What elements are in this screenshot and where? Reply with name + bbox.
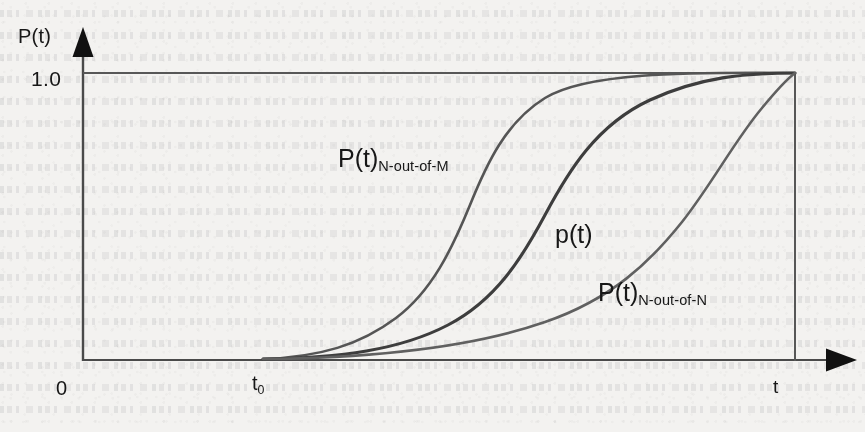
curve-label-p-t: p(t) bbox=[555, 222, 593, 247]
curve-p-t bbox=[263, 73, 795, 359]
y-tick-label-1-0: 1.0 bbox=[31, 68, 61, 89]
curve-label-n-out-of-m: P(t)N-out-of-M bbox=[338, 146, 449, 174]
x-axis-label: t bbox=[773, 377, 778, 396]
origin-label: 0 bbox=[56, 378, 67, 398]
curve-label-n-out-of-n: P(t)N-out-of-N bbox=[598, 280, 707, 308]
curve-label-pt-base: p(t) bbox=[555, 220, 593, 248]
curve-n-out-of-n bbox=[263, 73, 795, 359]
plot-area bbox=[0, 0, 865, 432]
curve-label-nm-subscript: N-out-of-M bbox=[378, 158, 448, 174]
y-axis-label: P(t) bbox=[18, 26, 51, 46]
figure-canvas: P(t) 1.0 0 t0 t P(t)N-out-of-M p(t) P(t)… bbox=[0, 0, 865, 432]
x-axis-arrowhead bbox=[826, 349, 857, 372]
x-tick-t0-subscript: 0 bbox=[258, 383, 265, 397]
curve-label-nm-base: P(t) bbox=[338, 144, 378, 172]
y-axis-arrowhead bbox=[73, 27, 94, 57]
curve-n-out-of-m bbox=[263, 73, 795, 359]
x-tick-label-t0: t0 bbox=[252, 373, 264, 396]
curve-label-nn-subscript: N-out-of-N bbox=[638, 292, 707, 308]
curve-label-nn-base: P(t) bbox=[598, 278, 638, 306]
